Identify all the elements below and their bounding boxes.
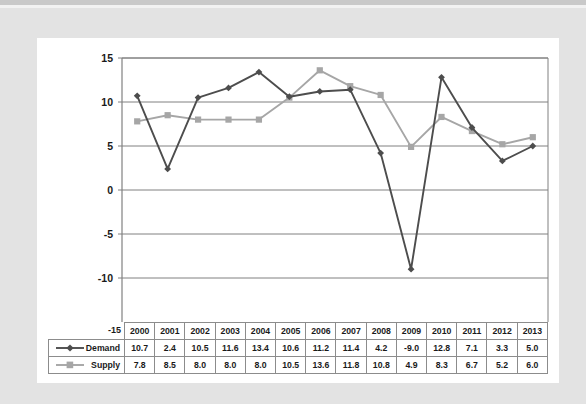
- table-cell: -9.0: [396, 340, 426, 357]
- table-cell: 8.0: [245, 357, 275, 374]
- legend-item-supply: Supply: [49, 357, 125, 374]
- y-axis-tick-label: 5: [107, 140, 113, 152]
- table-column-header-2009: 2009: [396, 323, 426, 340]
- y-axis-tick-label: -10: [98, 272, 113, 284]
- table-header-row: 2000200120022003200420052006200720082009…: [49, 323, 548, 340]
- y-axis-tick-label: -5: [104, 228, 113, 240]
- table-corner-cell: [49, 323, 125, 340]
- legend-marker-diamond-icon: [54, 340, 90, 356]
- data-point-supply-2008: [378, 92, 384, 98]
- y-axis-tick-label: 0: [107, 184, 113, 196]
- table-column-header-2005: 2005: [276, 323, 306, 340]
- screenshot-root: 151050-5-10 -15 200020012002200320042005…: [0, 0, 586, 404]
- table-cell: 8.3: [427, 357, 457, 374]
- table-cell: 10.5: [185, 340, 215, 357]
- table-cell: 3.3: [487, 340, 517, 357]
- table-cell: 7.8: [125, 357, 155, 374]
- table-column-header-2012: 2012: [487, 323, 517, 340]
- legend-marker-square-icon: [54, 357, 90, 373]
- data-point-supply-2004: [256, 117, 262, 123]
- table-cell: 5.2: [487, 357, 517, 374]
- table-cell: 8.5: [155, 357, 185, 374]
- data-point-supply-2012: [499, 141, 505, 147]
- table-cell: 7.1: [457, 340, 487, 357]
- table-cell: 4.9: [396, 357, 426, 374]
- table-cell: 11.2: [306, 340, 336, 357]
- chart-card: 151050-5-10 -15 200020012002200320042005…: [37, 38, 559, 383]
- data-point-supply-2009: [408, 144, 414, 150]
- table-cell: 12.8: [427, 340, 457, 357]
- y-axis-tick-labels: 151050-5-10: [98, 52, 122, 284]
- y-axis-tick-label: 10: [101, 96, 113, 108]
- table-row: Demand10.72.410.511.613.410.611.211.44.2…: [49, 340, 548, 357]
- table-column-header-2000: 2000: [125, 323, 155, 340]
- table-cell: 2.4: [155, 340, 185, 357]
- table-column-header-2003: 2003: [215, 323, 245, 340]
- legend-label: Demand: [86, 343, 120, 353]
- table-cell: 10.5: [276, 357, 306, 374]
- chart-data-table: 2000200120022003200420052006200720082009…: [48, 322, 548, 374]
- table-cell: 10.8: [366, 357, 396, 374]
- table-column-header-2010: 2010: [427, 323, 457, 340]
- table-body: Demand10.72.410.511.613.410.611.211.44.2…: [49, 340, 548, 374]
- legend-label: Supply: [91, 360, 120, 370]
- table-column-header-2011: 2011: [457, 323, 487, 340]
- page-frame: 151050-5-10 -15 200020012002200320042005…: [0, 8, 586, 404]
- table-column-header-2008: 2008: [366, 323, 396, 340]
- table-column-header-2013: 2013: [517, 323, 547, 340]
- table-cell: 5.0: [517, 340, 547, 357]
- table-cell: 11.8: [336, 357, 366, 374]
- table-column-header-2004: 2004: [245, 323, 275, 340]
- table-column-header-2002: 2002: [185, 323, 215, 340]
- table-cell: 13.4: [245, 340, 275, 357]
- table-cell: 10.7: [125, 340, 155, 357]
- table-cell: 4.2: [366, 340, 396, 357]
- data-point-supply-2013: [530, 134, 536, 140]
- table-cell: 10.6: [276, 340, 306, 357]
- table-column-header-2001: 2001: [155, 323, 185, 340]
- data-point-supply-2000: [134, 118, 140, 124]
- data-point-supply-2002: [195, 117, 201, 123]
- data-point-supply-2001: [165, 112, 171, 118]
- table-cell: 8.0: [185, 357, 215, 374]
- table-cell: 11.6: [215, 340, 245, 357]
- table-cell: 11.4: [336, 340, 366, 357]
- table-column-header-2006: 2006: [306, 323, 336, 340]
- data-point-supply-2010: [438, 114, 444, 120]
- table-cell: 6.0: [517, 357, 547, 374]
- legend-item-demand: Demand: [49, 340, 125, 357]
- y-axis-tick-label: 15: [101, 52, 113, 64]
- table-row: Supply7.88.58.08.08.010.513.611.810.84.9…: [49, 357, 548, 374]
- data-point-supply-2006: [317, 67, 323, 73]
- table-cell: 6.7: [457, 357, 487, 374]
- table-cell: 13.6: [306, 357, 336, 374]
- data-point-supply-2003: [225, 117, 231, 123]
- table-cell: 8.0: [215, 357, 245, 374]
- table-column-header-2007: 2007: [336, 323, 366, 340]
